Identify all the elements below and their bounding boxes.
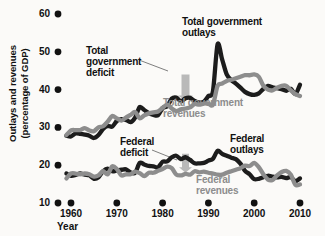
x-axis-tick-label: 1960: [51, 208, 91, 219]
annotation-line: Total: [86, 45, 141, 56]
annotation-line: deficit: [120, 147, 154, 158]
y-axis-tick-dot: [55, 200, 62, 207]
y-axis-tick-dot: [55, 86, 62, 93]
x-axis-tick-label: 2010: [280, 208, 320, 219]
annotation-line: government: [86, 56, 141, 67]
y-axis-tick-label: 40: [28, 84, 50, 95]
annotation-line: outlays: [182, 27, 262, 38]
x-axis-tick-dot: [68, 200, 75, 207]
annotation-total-government-outlays: Total government outlays: [182, 16, 262, 38]
chart-figure: Outlays and revenues (percentage of GDP)…: [0, 0, 325, 236]
x-axis-tick-label: 1980: [143, 208, 183, 219]
annotation-line: deficit: [86, 67, 141, 78]
annotation-federal-deficit: Federal deficit: [120, 136, 154, 158]
x-axis-tick-dot: [205, 200, 212, 207]
y-axis-tick-label: 50: [28, 46, 50, 57]
annotation-line: revenues: [163, 108, 243, 119]
y-axis-tick-dot: [55, 162, 62, 169]
annotation-line: outlays: [230, 144, 264, 155]
x-axis-tick-label: 1990: [188, 208, 228, 219]
annotation-total-government-deficit: Total government deficit: [86, 45, 141, 78]
x-axis-tick-dot: [297, 200, 304, 207]
x-axis-tick-label: 2000: [234, 208, 274, 219]
x-axis-tick-dot: [113, 200, 120, 207]
annotation-line: Federal: [120, 136, 154, 147]
annotation-line: Federal: [230, 133, 264, 144]
y-axis-tick-label: 10: [28, 197, 50, 208]
annotation-line: Federal: [196, 174, 238, 185]
annotation-line: Total government: [182, 16, 262, 27]
annotation-leader-line: [139, 60, 168, 71]
y-axis-tick-dot: [55, 124, 62, 131]
annotation-federal-revenues: Federal revenues: [196, 174, 238, 196]
x-axis-tick-dot: [251, 200, 258, 207]
x-axis-tick-dot: [159, 200, 166, 207]
annotation-line: revenues: [196, 185, 238, 196]
y-axis-tick-dot: [55, 48, 62, 55]
x-axis-tick-label: 1970: [97, 208, 137, 219]
y-axis-tick-label: 20: [28, 159, 50, 170]
annotation-total-government-revenues: Total government revenues: [163, 97, 243, 119]
x-axis-title: Year: [57, 221, 78, 232]
y-axis-tick-label: 30: [28, 121, 50, 132]
annotation-line: Total government: [163, 97, 243, 108]
y-axis-tick-label: 60: [28, 8, 50, 19]
annotation-federal-outlays: Federal outlays: [230, 133, 264, 155]
y-axis-tick-dot: [55, 11, 62, 18]
